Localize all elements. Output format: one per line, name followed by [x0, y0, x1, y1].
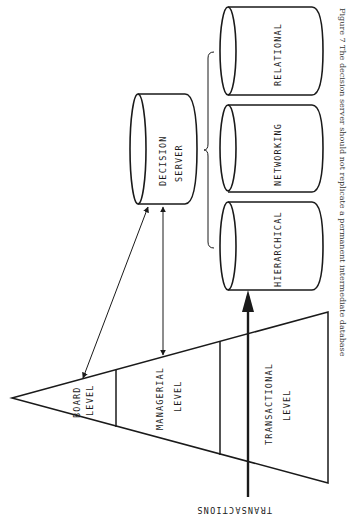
svg-text:TRANSACTIONAL: TRANSACTIONAL: [264, 363, 274, 445]
database-networking: NETWORKING: [220, 105, 323, 192]
databases-brace: [204, 52, 214, 248]
relational-label: RELATIONAL: [273, 23, 283, 86]
decision-server-label: DECISION SERVER: [158, 135, 184, 186]
hierarchical-label: HIERARCHICAL: [273, 211, 283, 287]
svg-text:DECISION: DECISION: [158, 135, 168, 186]
svg-text:LEVEL: LEVEL: [85, 384, 95, 416]
database-hierarchical: HIERARCHICAL: [220, 202, 323, 290]
managerial-level-label: MANAGERIAL LEVEL: [155, 367, 183, 430]
board-level-label: BOARD LEVEL: [72, 384, 95, 418]
figure-caption: Figure 7 The decision server should not …: [338, 8, 347, 357]
board-server-arrow: [83, 207, 148, 378]
organization-pyramid: BOARD LEVEL MANAGERIAL LEVEL TRANSACTION…: [12, 312, 328, 483]
decision-server-cylinder: DECISION SERVER: [130, 94, 197, 204]
transactional-level-label: TRANSACTIONAL LEVEL: [264, 363, 292, 445]
svg-text:BOARD: BOARD: [72, 386, 82, 418]
transactions-arrow-head: [242, 290, 254, 312]
svg-text:LEVEL: LEVEL: [282, 389, 292, 421]
diagram-canvas: BOARD LEVEL MANAGERIAL LEVEL TRANSACTION…: [0, 0, 352, 523]
database-relational: RELATIONAL: [220, 7, 323, 95]
svg-text:SERVER: SERVER: [174, 144, 184, 182]
transactions-label: TRANSACTIONS: [196, 505, 272, 515]
networking-label: NETWORKING: [273, 123, 283, 186]
svg-text:MANAGERIAL: MANAGERIAL: [155, 367, 165, 430]
svg-text:LEVEL: LEVEL: [173, 380, 183, 412]
